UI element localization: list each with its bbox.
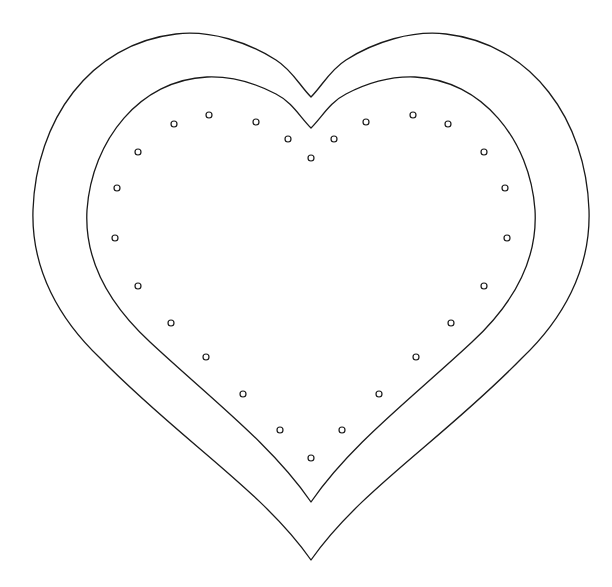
stitch-hole [135, 149, 141, 155]
stitch-hole [203, 354, 209, 360]
stitch-hole [240, 391, 246, 397]
stitch-hole [253, 119, 259, 125]
stitch-hole [376, 391, 382, 397]
stitch-holes [112, 112, 510, 461]
heart-template-drawing [0, 0, 612, 587]
stitch-hole [410, 112, 416, 118]
stitch-hole [331, 136, 337, 142]
stitch-hole [308, 155, 314, 161]
stitch-hole [206, 112, 212, 118]
inner-heart-outline [87, 77, 535, 502]
stitch-hole [481, 149, 487, 155]
stitch-hole [114, 185, 120, 191]
stitch-hole [504, 235, 510, 241]
outer-heart-outline [33, 33, 589, 560]
stitch-hole [413, 354, 419, 360]
stitch-hole [277, 427, 283, 433]
stitch-hole [502, 185, 508, 191]
stitch-hole [445, 121, 451, 127]
stitch-hole [135, 283, 141, 289]
stitch-hole [171, 121, 177, 127]
stitch-hole [308, 455, 314, 461]
stitch-hole [339, 427, 345, 433]
stitch-hole [448, 320, 454, 326]
stitch-hole [481, 283, 487, 289]
stitch-hole [112, 235, 118, 241]
stitch-hole [285, 136, 291, 142]
stitch-hole [168, 320, 174, 326]
stitch-hole [363, 119, 369, 125]
